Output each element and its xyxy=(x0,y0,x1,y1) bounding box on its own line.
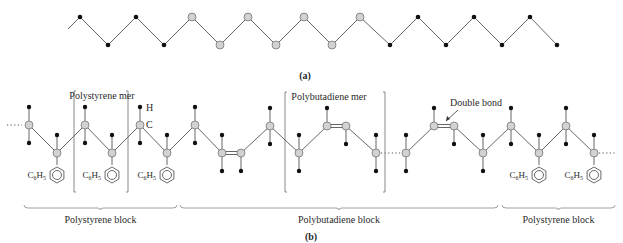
benzene-ring-inner-icon xyxy=(163,171,172,180)
backbone-atom-icon xyxy=(500,43,505,48)
hydrogen-atom-icon xyxy=(564,106,568,110)
block-braces: Polystyrene blockPolybutadiene blockPoly… xyxy=(24,205,615,225)
carbon-atom-label: C xyxy=(146,119,153,130)
backbone-atom-icon xyxy=(416,15,421,20)
single-bond xyxy=(167,125,195,153)
substituted-atom-icon xyxy=(328,41,336,49)
hydrogen-atom-icon xyxy=(344,142,348,146)
hydrogen-atom-icon xyxy=(220,133,224,137)
hydrogen-atom-icon xyxy=(404,133,408,137)
block-brace xyxy=(24,205,177,210)
hydrogen-atom-icon xyxy=(374,133,378,137)
carbon-atom-icon xyxy=(295,149,303,157)
hydrogen-atom-icon xyxy=(27,141,31,145)
c6h5-label: C6H5 xyxy=(564,170,583,181)
benzene-ring-inner-icon xyxy=(535,171,544,180)
carbon-atom-icon xyxy=(323,122,331,130)
single-bond xyxy=(566,126,594,153)
hydrogen-atom-icon xyxy=(537,133,541,137)
single-bond xyxy=(29,125,57,153)
carbon-atom-icon xyxy=(372,149,380,157)
hydrogen-atom-icon xyxy=(509,106,513,110)
single-bond xyxy=(539,126,566,153)
hydrogen-atom-icon xyxy=(55,133,59,137)
carbon-atom-icon xyxy=(535,149,543,157)
backbone-atom-icon xyxy=(388,43,393,48)
single-bond xyxy=(346,126,376,153)
hydrogen-atom-icon xyxy=(404,169,408,173)
panel-b-chain: C6H5C6H5C6H5C6H5C6H5 xyxy=(7,91,617,192)
block-brace xyxy=(502,205,615,210)
hydrogen-atom-icon xyxy=(564,142,568,146)
backbone-atom-icon xyxy=(555,43,560,48)
single-bond xyxy=(483,126,511,153)
hydrogen-atom-icon xyxy=(83,141,87,145)
polybutadiene-mer-label: Polybutadiene mer xyxy=(291,91,367,102)
block-brace xyxy=(180,205,498,210)
block-label: Polystyrene block xyxy=(65,214,137,225)
carbon-atom-icon xyxy=(266,122,274,130)
substituted-atom-icon xyxy=(188,13,196,21)
single-bond xyxy=(241,126,270,153)
hydrogen-atom-icon xyxy=(83,105,87,109)
single-bond xyxy=(112,125,140,153)
polystyrene-mer-label: Polystyrene mer xyxy=(69,90,135,101)
backbone-atom-icon xyxy=(134,15,139,20)
hydrogen-atom-icon xyxy=(165,133,169,137)
c6h5-label: C6H5 xyxy=(82,170,101,181)
substituted-atom-icon xyxy=(300,13,308,21)
panel-a-chain xyxy=(68,13,559,49)
carbon-atom-icon xyxy=(342,122,350,130)
carbon-atom-icon xyxy=(507,122,515,130)
hydrogen-atom-icon xyxy=(297,169,301,173)
hydrogen-atom-icon xyxy=(239,169,243,173)
c6h5-label: C6H5 xyxy=(137,170,156,181)
backbone-atom-icon xyxy=(106,43,111,48)
substituted-atom-icon xyxy=(216,41,224,49)
single-bond xyxy=(195,125,222,153)
hydrogen-atom-icon xyxy=(325,106,329,110)
hydrogen-atom-icon xyxy=(432,106,436,110)
carbon-atom-icon xyxy=(590,149,598,157)
copolymer-diagram: (a) C6H5C6H5C6H5C6H5C6H5 Polystyrene mer… xyxy=(0,0,623,243)
backbone-bond xyxy=(68,17,557,45)
panel-a-label: (a) xyxy=(299,70,311,82)
substituted-atom-icon xyxy=(272,41,280,49)
backbone-atom-icon xyxy=(78,15,83,20)
carbon-atom-icon xyxy=(53,149,61,157)
double-bond-arrowhead xyxy=(446,116,450,121)
single-bond xyxy=(140,125,167,153)
carbon-atom-icon xyxy=(562,122,570,130)
carbon-atom-icon xyxy=(108,149,116,157)
backbone-atom-icon xyxy=(444,43,449,48)
c6h5-label: C6H5 xyxy=(509,170,528,181)
hydrogen-atom-icon xyxy=(193,105,197,109)
single-bond xyxy=(299,126,327,153)
carbon-atom-icon xyxy=(191,121,199,129)
c6h5-label: C6H5 xyxy=(27,170,46,181)
hydrogen-atom-icon xyxy=(138,105,142,109)
hydrogen-atom-icon xyxy=(481,133,485,137)
hydrogen-atom-icon xyxy=(110,133,114,137)
benzene-ring-inner-icon xyxy=(590,171,599,180)
carbon-atom-icon xyxy=(136,121,144,129)
hydrogen-atom-icon xyxy=(452,142,456,146)
single-bond xyxy=(57,125,85,153)
carbon-atom-icon xyxy=(25,121,33,129)
hydrogen-atom-icon xyxy=(268,142,272,146)
carbon-atom-icon xyxy=(402,149,410,157)
carbon-atom-icon xyxy=(81,121,89,129)
backbone-atom-icon xyxy=(472,15,477,20)
substituted-atom-icon xyxy=(244,13,252,21)
hydrogen-atom-icon xyxy=(220,169,224,173)
single-bond xyxy=(85,125,112,153)
hydrogen-atom-icon xyxy=(138,141,142,145)
block-label: Polystyrene block xyxy=(523,214,595,225)
block-label: Polybutadiene block xyxy=(298,214,380,225)
hydrogen-atom-icon xyxy=(268,106,272,110)
substituted-atom-icon xyxy=(356,13,364,21)
carbon-atom-icon xyxy=(450,122,458,130)
carbon-atom-icon xyxy=(163,149,171,157)
single-bond xyxy=(454,126,483,153)
benzene-ring-inner-icon xyxy=(53,171,62,180)
